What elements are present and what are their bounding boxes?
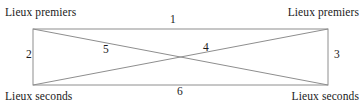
edge-label-6: 6 <box>177 85 183 97</box>
edge-label-3: 3 <box>334 48 340 60</box>
corner-label-bottom-left: Lieux seconds <box>5 90 72 102</box>
figure-canvas: Lieux premiers Lieux premiers Lieux seco… <box>0 0 363 106</box>
corner-label-bottom-right: Lieux seconds <box>292 90 359 102</box>
corner-label-top-right: Lieux premiers <box>288 6 359 18</box>
edge-label-2: 2 <box>26 48 32 60</box>
corner-label-top-left: Lieux premiers <box>5 6 76 18</box>
edge-label-4: 4 <box>203 41 209 53</box>
edge-label-5: 5 <box>103 43 109 55</box>
edge-label-1: 1 <box>170 13 176 25</box>
